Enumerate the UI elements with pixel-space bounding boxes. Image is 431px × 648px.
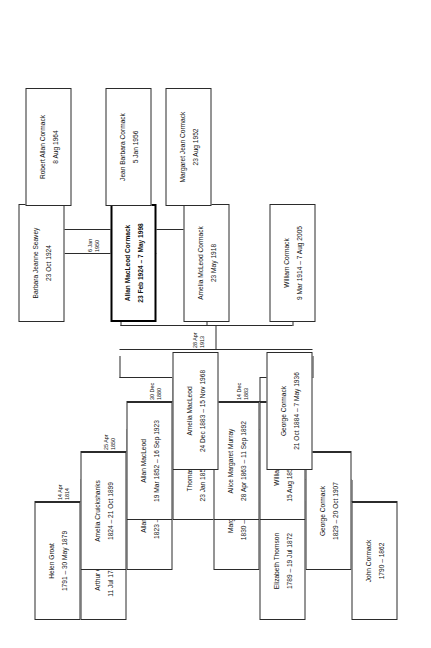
person-box-william-cormack-1914[interactable]: William Cormack 9 Mar 1914 – 7 Aug 2005 (269, 204, 315, 322)
person-box-amelia-macleod[interactable]: Amelia MacLeod 24 Dec 1883 – 15 Nov 1968 (172, 352, 218, 470)
marriage-day: 6 Jan (86, 239, 93, 252)
marriage-year: 1880 (155, 383, 162, 400)
family-tree-chart: 14 Apr 1814 25 Apr 1850 30 Dec 1880 6 Fe… (0, 0, 431, 648)
person-dates: 1791 – 30 May 1879 (59, 531, 69, 591)
person-dates: 19 Mar 1852 – 16 Sep 1923 (151, 420, 161, 502)
person-box-barbara-jeanne-seavey[interactable]: Barbara Jeanne Seavey 23 Oct 1924 (18, 204, 64, 322)
person-dates: 1829 – 20 Oct 1907 (330, 482, 340, 540)
person-box-amelia-mcleod-cormack[interactable]: Amelia McLeod Cormack 23 May 1918 (183, 204, 229, 322)
connector-line (119, 356, 120, 378)
marriage-year: 1814 (63, 484, 70, 500)
marriage-day: 25 Apr (102, 434, 109, 450)
person-box-alice-margaret-murray[interactable]: Alice Margaret Murray 28 Apr 1863 – 11 S… (213, 402, 259, 520)
person-box-george-cormack-1884[interactable]: George Cormack 21 Oct 1884 – 7 May 1936 (266, 352, 312, 470)
marriage-year: 1950 (93, 239, 100, 252)
connector-line (215, 326, 216, 350)
person-dates: 28 Apr 1863 – 11 Sep 1892 (238, 421, 248, 501)
marriage-label: 30 Dec 1880 (148, 383, 162, 400)
person-dates: 24 Dec 1883 – 15 Nov 1968 (197, 370, 207, 452)
marriage-year: 1883 (242, 383, 249, 400)
connector-line (259, 378, 260, 402)
person-name: Margaret Jean Cormack (177, 112, 187, 183)
marriage-label: 14 Apr 1814 (56, 484, 70, 500)
person-dates: 1824 – 21 Oct 1899 (105, 482, 115, 540)
person-name: John Cormack (363, 540, 373, 583)
person-name: Robert Allan Cormack (37, 115, 47, 179)
person-name: Allan MacLeod (138, 439, 148, 483)
person-box-margaret-jean-cormack[interactable]: Margaret Jean Cormack 23 Aug 1952 (165, 88, 211, 206)
person-dates: 23 Oct 1924 (43, 245, 53, 281)
person-name: Alice Margaret Murray (225, 429, 235, 494)
marriage-label: 28 Apr 1913 (191, 332, 205, 348)
person-box-john-cormack[interactable]: John Cormack 1790 – 1862 (351, 502, 397, 620)
person-name: Jean Barbara Cormack (117, 113, 127, 181)
marriage-year: 1913 (198, 332, 205, 348)
person-dates: 1789 – 19 Jul 1872 (284, 533, 294, 589)
person-name: William Cormack (281, 238, 291, 287)
person-name: Amelia Cruickshanks (92, 480, 102, 542)
marriage-label: 14 Dec 1883 (235, 383, 249, 400)
connector-line (119, 377, 172, 378)
person-name: Barbara Jeanne Seavey (30, 228, 40, 299)
person-dates: 5 Jan 1956 (130, 131, 140, 164)
person-name: George Cormack (317, 486, 327, 536)
person-dates: 8 Aug 1964 (50, 130, 60, 163)
person-name: George Cormack (278, 386, 288, 436)
marriage-label: 6 Jan 1950 (86, 239, 100, 252)
person-dates: 23 Feb 1924 – 7 May 1998 (135, 223, 145, 303)
person-name: Helen Groat (46, 543, 56, 579)
person-name: Amelia MacLeod (184, 386, 194, 435)
person-dates: 21 Oct 1884 – 7 May 1936 (291, 372, 301, 450)
marriage-day: 14 Apr (56, 484, 63, 500)
person-box-amelia-cruickshanks[interactable]: Amelia Cruickshanks 1824 – 21 Oct 1899 (80, 452, 126, 570)
marriage-day: 30 Dec (148, 383, 155, 400)
person-name: Allan MacLeod Cormack (122, 225, 132, 302)
person-box-robert-allan-cormack[interactable]: Robert Allan Cormack 8 Aug 1964 (25, 88, 71, 206)
person-box-jean-barbara-cormack[interactable]: Jean Barbara Cormack 5 Jan 1956 (105, 88, 151, 206)
marriage-day: 14 Dec (235, 383, 242, 400)
person-box-allan-macleod-1852[interactable]: Allan MacLeod 19 Mar 1852 – 16 Sep 1923 (126, 402, 172, 520)
chart-stage: 14 Apr 1814 25 Apr 1850 30 Dec 1880 6 Fe… (0, 0, 431, 648)
person-dates: 23 May 1918 (208, 244, 218, 282)
person-box-allan-macleod-cormack[interactable]: Allan MacLeod Cormack 23 Feb 1924 – 7 Ma… (110, 204, 156, 322)
person-box-helen-groat[interactable]: Helen Groat 1791 – 30 May 1879 (34, 502, 80, 620)
person-dates: 23 Aug 1952 (190, 128, 200, 165)
marriage-day: 28 Apr (191, 332, 198, 348)
person-name: Amelia McLeod Cormack (195, 226, 205, 300)
marriage-label: 25 Apr 1850 (102, 434, 116, 450)
person-dates: 9 Mar 1914 – 7 Aug 2005 (294, 226, 304, 300)
person-name: Elizabeth Thomson (271, 533, 281, 589)
marriage-year: 1850 (109, 434, 116, 450)
person-dates: 1790 – 1862 (376, 543, 386, 580)
